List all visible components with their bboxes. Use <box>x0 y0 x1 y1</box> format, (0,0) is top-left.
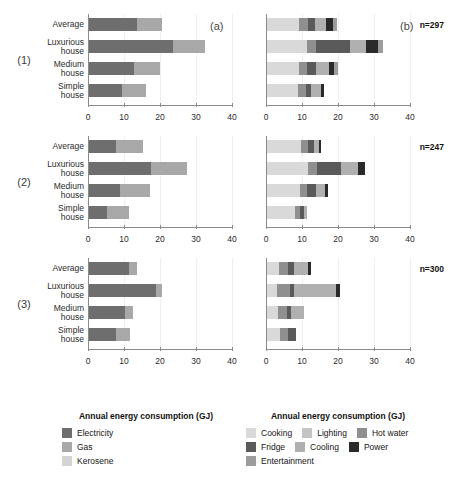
panel-group-2: (2)010203040AverageLuxurious houseMedium… <box>0 128 474 250</box>
bar-segment-gas <box>125 306 133 319</box>
bar-row <box>267 306 411 319</box>
x-tick-label: 20 <box>155 356 164 366</box>
legend-item[interactable]: Cooling <box>295 442 339 452</box>
bar-segment-gas <box>116 328 131 341</box>
bar-segment-electricity <box>89 84 122 97</box>
x-tick-label: 40 <box>405 234 414 244</box>
x-tick-label: 20 <box>333 356 342 366</box>
bar-segment-entertainment <box>334 62 337 75</box>
category-label: Luxurious house <box>24 37 84 56</box>
legend-item[interactable]: Kerosene <box>62 456 113 466</box>
chart-figure: (1)010203040AverageLuxurious houseMedium… <box>0 0 474 497</box>
x-tick-label: 40 <box>405 112 414 122</box>
stacked-bar <box>267 328 297 341</box>
bar-segment-cooling <box>294 262 308 275</box>
legend-item[interactable]: Hot water <box>357 428 408 438</box>
legend-label: Electricity <box>77 428 113 438</box>
bar-segment-cooling <box>316 62 329 75</box>
bar-segment-fridge <box>308 18 315 31</box>
legend-item[interactable]: Electricity <box>62 428 113 438</box>
bar-segment-entertainment <box>378 40 383 53</box>
bar-segment-cooking <box>267 162 308 175</box>
x-tick <box>410 103 411 107</box>
bar-segment-power <box>366 40 378 53</box>
x-tick <box>338 225 339 229</box>
category-label: Average <box>24 142 84 152</box>
legend-label: Lighting <box>317 428 347 438</box>
bar-segment-electricity <box>89 206 107 219</box>
legend-label: Entertainment <box>261 456 314 466</box>
bar-row <box>267 84 411 97</box>
legend-swatch-icon <box>62 456 72 466</box>
sample-size-label: n=247 <box>420 142 444 152</box>
stacked-bar <box>89 184 150 197</box>
x-tick-label: 30 <box>191 112 200 122</box>
bar-row <box>267 206 411 219</box>
plot-area: 010203040 <box>266 258 410 350</box>
x-tick-label: 40 <box>405 356 414 366</box>
legend-row: CookingLightingHot water <box>246 428 472 438</box>
bar-row: Luxurious house <box>89 40 233 53</box>
x-tick <box>232 225 233 229</box>
legend-swatch-icon <box>357 428 367 438</box>
x-tick <box>124 347 125 351</box>
stacked-bar <box>267 262 311 275</box>
category-label: Average <box>24 20 84 30</box>
bar-segment-power <box>308 262 311 275</box>
x-tick-label: 10 <box>119 112 128 122</box>
legend-swatch-icon <box>295 442 305 452</box>
x-tick-label: 10 <box>119 234 128 244</box>
bar-row: Average <box>89 262 233 275</box>
x-tick <box>266 347 267 351</box>
legend-swatch-icon <box>302 428 312 438</box>
bar-segment-fridge <box>317 162 341 175</box>
legend-label: Kerosene <box>77 456 113 466</box>
bar-row <box>267 40 411 53</box>
bar-segment-hot-water <box>300 184 307 197</box>
legend-item[interactable]: Power <box>349 442 388 452</box>
panel-a: 010203040AverageLuxurious houseMedium ho… <box>40 250 242 372</box>
x-tick-label: 0 <box>86 234 91 244</box>
bar-segment-power <box>325 184 328 197</box>
legend-item[interactable]: Lighting <box>302 428 347 438</box>
bar-segment-hot-water <box>280 328 288 341</box>
bar-segment-cooking <box>267 84 298 97</box>
bar-segment-electricity <box>89 40 173 53</box>
x-tick <box>410 225 411 229</box>
bar-segment-hot-water <box>301 140 309 153</box>
x-tick-label: 10 <box>297 112 306 122</box>
x-tick <box>374 347 375 351</box>
legend-item[interactable]: Gas <box>62 442 113 452</box>
panel-b: 010203040n=300 <box>250 250 446 372</box>
stacked-bar <box>267 40 383 53</box>
stacked-bar <box>89 162 187 175</box>
stacked-bar <box>89 140 143 153</box>
x-tick <box>266 103 267 107</box>
x-tick <box>410 347 411 351</box>
bar-segment-hot-water <box>298 84 305 97</box>
bar-segment-fridge <box>307 184 315 197</box>
stacked-bar <box>89 40 205 53</box>
panel-group-3: (3)010203040AverageLuxurious houseMedium… <box>0 250 474 372</box>
bar-segment-cooling <box>350 40 367 53</box>
legend-item[interactable]: Entertainment <box>246 456 314 466</box>
legend-item[interactable]: Cooking <box>246 428 292 438</box>
panel-tag: (a) <box>210 20 223 32</box>
category-label: Medium house <box>24 303 84 322</box>
panel-tag: (b) <box>400 20 413 32</box>
stacked-bar <box>267 306 304 319</box>
bar-segment-power <box>319 140 322 153</box>
x-tick <box>88 103 89 107</box>
bar-segment-cooling <box>291 306 304 319</box>
stacked-bar <box>267 140 321 153</box>
bar-segment-gas <box>156 284 162 297</box>
bar-segment-electricity <box>89 62 134 75</box>
panel-group-1: (1)010203040AverageLuxurious houseMedium… <box>0 6 474 128</box>
stacked-bar <box>89 206 129 219</box>
legend-label: Gas <box>77 442 93 452</box>
legend-item[interactable]: Fridge <box>246 442 285 452</box>
x-tick-label: 20 <box>155 234 164 244</box>
bar-row: Medium house <box>89 62 233 75</box>
x-axis-title-left: Annual energy consumption (GJ) <box>48 411 244 421</box>
bar-row: Medium house <box>89 306 233 319</box>
